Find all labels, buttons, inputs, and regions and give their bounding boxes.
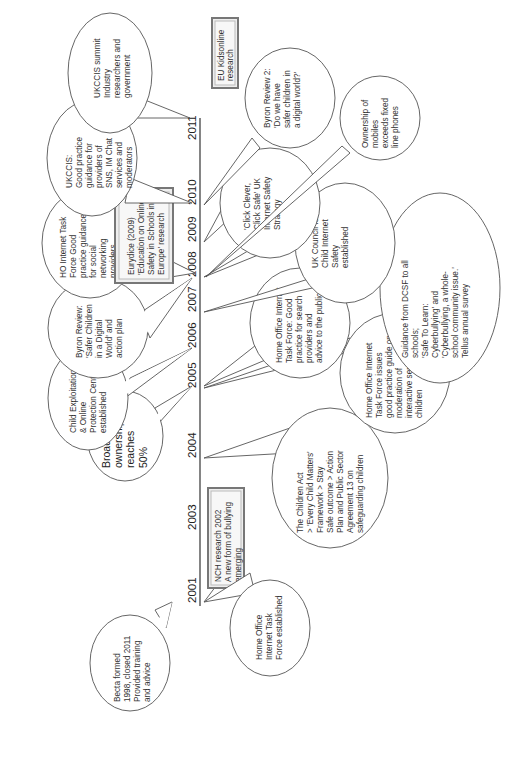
year-2007: 2007 <box>186 286 198 312</box>
event-click-clever: 'Click Clever, Click Safe' UK Internet S… <box>204 148 320 258</box>
year-2001: 2001 <box>186 577 198 603</box>
year-2005: 2005 <box>186 362 198 388</box>
year-2004: 2004 <box>186 432 198 458</box>
timeline-canvas: 2001 2003 2004 2005 2006 2007 2008 2009 … <box>0 0 509 778</box>
svg-text:UKCCIS: Good practice: UKCCIS: Good practice guidance for provi… <box>65 135 134 188</box>
event-ukccis-summit: UKCCIS summit Industry researchers and g… <box>68 13 190 133</box>
timeline-diagram: 2001 2003 2004 2005 2006 2007 2008 2009 … <box>0 0 509 778</box>
event-eu-kidsonline: EU Kidsonline research <box>212 18 238 88</box>
svg-text:Home Office Internet Tas: Home Office Internet Task Force: Good pr… <box>275 285 324 363</box>
year-2006: 2006 <box>186 322 198 348</box>
svg-text:Byron Review 2: 'Do we h: Byron Review 2: 'Do we have safer childr… <box>263 66 302 128</box>
year-2011: 2011 <box>186 115 198 140</box>
year-labels: 2001 2003 2004 2005 2006 2007 2008 2009 … <box>186 115 198 603</box>
event-becta: Becta formed 1998, closed 2011 Provided … <box>90 602 172 711</box>
year-2009: 2009 <box>186 216 198 242</box>
year-2003: 2003 <box>186 504 198 530</box>
